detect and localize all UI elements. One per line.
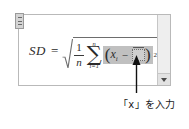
variable-x-subscript: i [116, 55, 118, 63]
variable-x: xi [110, 47, 117, 63]
square-root: 1 n n ∑ i=1 ( xi − [62, 33, 164, 69]
annotation-arrow [132, 55, 141, 93]
fraction-numerator: 1 [74, 42, 84, 53]
radical-sign-icon [62, 37, 73, 69]
vertical-scrollbar[interactable] [157, 15, 170, 85]
fraction-one-over-n: 1 n [74, 42, 84, 67]
grip-line [18, 17, 22, 18]
summation: n ∑ i=1 [87, 41, 102, 69]
minus-operator: − [122, 49, 128, 61]
radicand: 1 n n ∑ i=1 ( xi − [73, 37, 164, 69]
chevron-down-icon [161, 78, 167, 82]
selected-expression[interactable]: ( xi − ) [103, 46, 153, 64]
summation-lower-limit: i=1 [90, 63, 99, 70]
equation-object-frame[interactable]: SD = 1 n n ∑ i= [18, 14, 171, 86]
equals-sign: = [51, 43, 58, 59]
drag-handle[interactable] [15, 13, 24, 29]
fraction-denominator: n [74, 57, 84, 68]
equation-lhs: SD [29, 43, 46, 59]
close-paren: ) [145, 47, 151, 62]
screenshot-root: SD = 1 n n ∑ i= [0, 0, 189, 129]
scroll-down-button[interactable] [158, 73, 170, 85]
grip-line [18, 24, 22, 25]
annotation-label: 「x」を入力 [118, 96, 176, 111]
grip-line [18, 21, 22, 22]
